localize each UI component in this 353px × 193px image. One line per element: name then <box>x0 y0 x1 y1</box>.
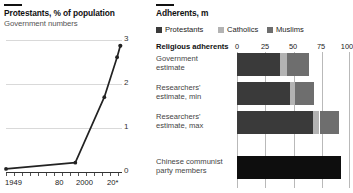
x-label-2000: 2000 <box>76 178 93 187</box>
x-tick-label-50: 50 <box>289 42 297 51</box>
bar-segment-protestants <box>237 53 280 76</box>
bar-segment-catholics <box>280 53 287 76</box>
row-label-line2: party members <box>156 166 223 175</box>
legend-swatch-muslims <box>267 27 273 33</box>
left-x-axis <box>6 172 122 173</box>
row-label-line1: Researchers' <box>156 83 201 92</box>
bar-plot-area <box>237 52 350 188</box>
x-tick-label-75: 75 <box>317 42 325 51</box>
bar-segment-muslims <box>295 82 314 105</box>
x-tick <box>38 173 39 176</box>
row-label-line1: Chinese communist <box>156 157 223 166</box>
x-tick <box>6 173 7 176</box>
x-tick <box>78 173 79 176</box>
x-tick <box>94 173 95 176</box>
legend-label-protestants: Protestants <box>165 25 203 34</box>
row-label-line2: estimate <box>156 63 198 72</box>
row-label-line1: Researchers' <box>156 112 203 121</box>
bar-segment-muslims <box>320 111 339 134</box>
y-tick-2: 2 <box>124 78 128 87</box>
bar-segment-protestants <box>237 111 313 134</box>
left-chart-subtitle: Government numbers <box>4 19 78 28</box>
x-tick <box>14 173 15 176</box>
x-tick <box>54 173 55 176</box>
legend-swatch-protestants <box>156 27 162 33</box>
row-label-line2: estimate, max <box>156 121 203 130</box>
x-tick-label-25: 25 <box>261 42 269 51</box>
x-tick <box>62 173 63 176</box>
left-chart-panel: Protestants, % of population Government … <box>0 0 150 193</box>
title-rule-left <box>4 4 22 6</box>
legend: Protestants Catholics Muslims <box>156 25 350 35</box>
bar-segment-protestants <box>237 82 290 105</box>
bar-segment-ccp-members <box>237 156 341 179</box>
y-tick-1: 1 <box>124 122 128 131</box>
x-tick <box>22 173 23 176</box>
bar-segment-catholics <box>313 111 320 134</box>
row-label-line1: Government <box>156 54 198 63</box>
x-label-80: 80 <box>55 178 63 187</box>
bar-segment-muslims <box>287 53 310 76</box>
row-label-researchers-min: Researchers' estimate, min <box>156 83 201 102</box>
protestants-line-series <box>6 33 122 172</box>
row-label-ccp-members: Chinese communist party members <box>156 157 223 176</box>
x-tick <box>46 173 47 176</box>
x-tick-label-100: 100 <box>341 42 353 51</box>
row-label-researchers-max: Researchers' estimate, max <box>156 112 203 131</box>
x-tick-label-0: 0 <box>235 42 239 51</box>
legend-label-catholics: Catholics <box>227 25 258 34</box>
x-label-20: 20* <box>107 178 118 187</box>
x-tick <box>86 173 87 176</box>
x-tick <box>118 173 119 176</box>
legend-label-muslims: Muslims <box>276 25 304 34</box>
row-label-line2: estimate, min <box>156 92 201 101</box>
x-tick <box>110 173 111 176</box>
gridline-100 <box>349 52 350 188</box>
y-tick-0: 0 <box>124 166 128 175</box>
x-label-1949: 1949 <box>5 178 22 187</box>
x-tick <box>70 173 71 176</box>
right-chart-panel: Adherents, m Protestants Catholics Musli… <box>156 0 350 193</box>
row-label-government-estimate: Government estimate <box>156 54 198 73</box>
title-rule-right <box>156 4 174 6</box>
right-chart-title: Adherents, m <box>156 8 208 18</box>
x-tick <box>102 173 103 176</box>
left-chart-title: Protestants, % of population <box>4 8 115 18</box>
x-tick <box>30 173 31 176</box>
scale-row-title: Religious adherents <box>156 42 229 51</box>
y-tick-3: 3 <box>124 34 128 43</box>
legend-swatch-catholics <box>218 27 224 33</box>
